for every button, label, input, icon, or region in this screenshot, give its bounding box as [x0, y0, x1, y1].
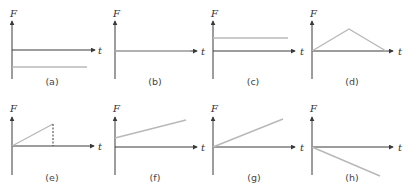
t-axis-label: t [300, 46, 305, 57]
panel-h: F t (h) [309, 103, 403, 183]
f-axis-label: F [309, 103, 318, 114]
panel-c: F t (c) [210, 8, 305, 87]
panel-a: F t (a) [9, 8, 103, 87]
force-triangle [312, 29, 386, 51]
panel-e: F t (e) [9, 103, 103, 183]
panel-label: (c) [247, 76, 260, 87]
t-axis-label: t [398, 142, 403, 153]
t-axis-label: t [98, 141, 103, 152]
f-axis-label: F [112, 8, 121, 19]
f-axis-label: F [210, 103, 219, 114]
f-axis-label: F [9, 103, 18, 114]
f-axis-label: F [9, 8, 18, 19]
force-time-graphs-figure: F t (a) F t (b) F t (c) F t (d) F t (e) [0, 0, 414, 194]
panel-d: F t (d) [309, 8, 403, 87]
panel-label: (b) [148, 76, 161, 87]
t-axis-label: t [201, 46, 206, 57]
force-line [115, 120, 186, 138]
panel-label: (d) [345, 76, 358, 87]
panel-label: (a) [45, 76, 58, 87]
panel-g: F t (g) [210, 103, 305, 183]
force-ramp [12, 124, 53, 146]
panel-label: (e) [45, 172, 58, 183]
panel-b: F t (b) [112, 8, 206, 87]
panel-label: (h) [345, 172, 358, 183]
f-axis-label: F [309, 8, 318, 19]
f-axis-label: F [210, 8, 219, 19]
f-axis-label: F [112, 103, 121, 114]
force-line [213, 119, 283, 147]
panel-f: F t (f) [112, 103, 206, 183]
t-axis-label: t [398, 46, 403, 57]
panel-label: (f) [150, 172, 161, 183]
t-axis-label: t [201, 142, 206, 153]
panel-label: (g) [247, 172, 260, 183]
t-axis-label: t [98, 45, 103, 56]
t-axis-label: t [300, 142, 305, 153]
